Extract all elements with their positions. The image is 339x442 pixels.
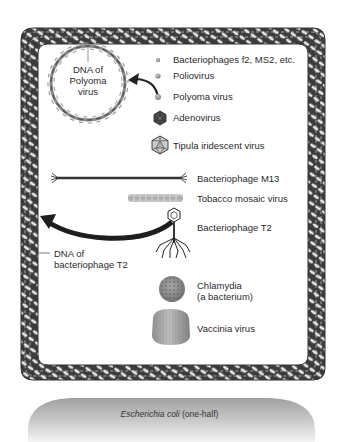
label-tobacco-mosaic-virus: Tobacco mosaic virus xyxy=(197,193,288,204)
label-chlamydia-name: Chlamydia xyxy=(197,280,253,291)
label-polyoma-virus: Polyoma virus xyxy=(173,91,233,102)
t2-dna-label-line-2: bacteriophage T2 xyxy=(54,259,128,270)
ecoli-label-species: Escherichia coli xyxy=(121,409,180,419)
label-bacteriophage-t2: Bacteriophage T2 xyxy=(197,222,272,233)
label-bacteriophage-m13: Bacteriophage M13 xyxy=(197,173,279,184)
polyoma-dna-label-line-1: DNA of xyxy=(63,64,113,75)
small-sphere-icon xyxy=(155,73,160,78)
polyoma-dna-label-line-2: Polyoma xyxy=(63,75,113,86)
ecoli-cell-shape xyxy=(28,398,315,442)
ecoli-label-qualifier: (one-half) xyxy=(180,409,219,419)
ecoli-label: Escherichia coli (one-half) xyxy=(0,409,339,419)
label-adenovirus: Adenovirus xyxy=(173,112,221,123)
t2-dna-label: DNA of bacteriophage T2 xyxy=(54,248,128,270)
label-vaccinia-virus: Vaccinia virus xyxy=(197,323,255,334)
textured-sphere-icon xyxy=(159,276,185,302)
rod-icon xyxy=(128,194,183,202)
label-chlamydia: Chlamydia (a bacterium) xyxy=(197,280,253,302)
brick-virus-icon xyxy=(152,309,190,345)
polyoma-dna-label-line-3: virus xyxy=(63,86,113,97)
virus-size-diagram: DNA of Polyoma virus Bacteriophages f2, … xyxy=(0,0,339,442)
tiny-sphere-icon xyxy=(156,58,160,62)
label-chlamydia-sublabel: (a bacterium) xyxy=(197,291,253,302)
icosahedron-dark-icon xyxy=(154,111,166,125)
label-tipula-iridescent-virus: Tipula iridescent virus xyxy=(173,140,265,151)
polyoma-dna-label: DNA of Polyoma virus xyxy=(63,64,113,97)
label-poliovirus: Poliovirus xyxy=(173,70,214,81)
diagram-artwork xyxy=(0,0,339,442)
icosahedron-light-icon xyxy=(152,136,168,154)
t2-dna-label-line-1: DNA of xyxy=(54,248,128,259)
label-bacteriophages-f2: Bacteriophages f2, MS2, etc. xyxy=(173,54,295,65)
sphere-icon xyxy=(155,94,161,100)
